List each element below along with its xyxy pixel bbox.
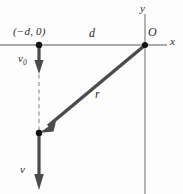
origin-label: O — [148, 26, 157, 38]
x-axis-label: x — [170, 36, 175, 47]
v0-vector-arrowhead — [34, 60, 43, 74]
particle-point-dot — [36, 130, 42, 136]
physics-vector-diagram: (−d, 0) d O x y v0 r v — [0, 0, 183, 194]
v0-vector-label: v0 — [18, 53, 27, 67]
v-vector-label: v — [20, 164, 25, 175]
origin-dot — [142, 42, 148, 48]
r-vector-shaft — [48, 46, 144, 126]
distance-label: d — [89, 27, 95, 39]
v0-vector-label-subscript: 0 — [23, 58, 27, 67]
launch-point-label: (−d, 0) — [13, 26, 46, 37]
r-vector-label: r — [95, 88, 100, 100]
v-vector-arrowhead — [34, 174, 44, 190]
y-axis-label: y — [140, 3, 145, 14]
launch-point-dot — [36, 42, 42, 48]
